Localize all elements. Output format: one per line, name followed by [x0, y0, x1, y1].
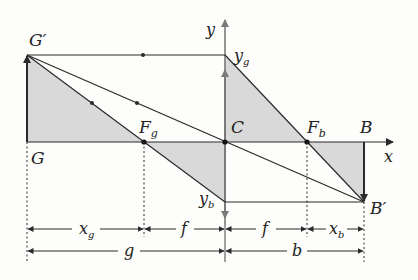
- label-fb: Fb: [306, 117, 326, 140]
- label-fg: Fg: [138, 117, 158, 140]
- label-x-axis: x: [384, 147, 393, 166]
- label-y-axis: y: [205, 20, 216, 39]
- label-b-prime: B′: [369, 198, 386, 218]
- dim-f-left: f: [180, 219, 190, 238]
- label-b: B: [359, 117, 373, 137]
- diagram-canvas: G′ G Fg C Fb B B′ y x yg yb xg f f xb g …: [0, 0, 418, 280]
- lens-center: [222, 139, 227, 144]
- lens-diagram: G′ G Fg C Fb B B′ y x yg yb xg f f xb g …: [0, 0, 418, 280]
- label-g-prime: G′: [29, 30, 47, 50]
- label-c: C: [231, 117, 244, 137]
- dim-f-right: f: [261, 219, 271, 238]
- dim-xb: xb: [329, 219, 344, 240]
- dim-xg: xg: [79, 219, 94, 240]
- dim-b: b: [292, 241, 302, 260]
- dim-g: g: [124, 241, 134, 260]
- label-yg: yg: [233, 46, 249, 67]
- label-g: G: [31, 148, 45, 168]
